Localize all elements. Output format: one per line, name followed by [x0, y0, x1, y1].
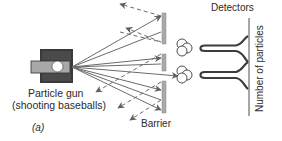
baseball-cluster-icon [177, 39, 192, 83]
double-slit-baseball-diagram: Detectors Number of particles Barrier Pa… [0, 0, 282, 141]
particle-gun-icon [31, 49, 73, 83]
detectors-label: Detectors [211, 3, 254, 13]
number-of-particles-label: Number of particles [255, 25, 265, 112]
barrier-label: Barrier [141, 119, 171, 129]
particle-gun-label: Particle gun [28, 88, 83, 99]
panel-label: (a) [32, 123, 44, 133]
particle-distribution-curve [201, 36, 249, 89]
shooting-baseballs-label: (shooting baseballs) [12, 100, 106, 111]
barrier [162, 13, 166, 113]
